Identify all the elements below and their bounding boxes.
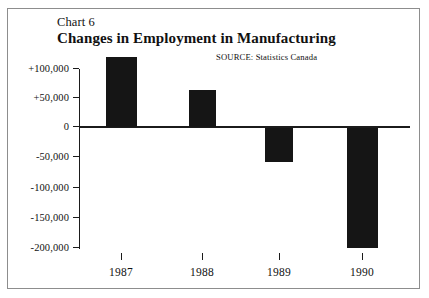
y-axis-tick-label: -50,000	[3, 151, 69, 162]
y-axis-tick-label: 0	[3, 121, 69, 132]
y-axis-tick	[73, 217, 79, 218]
y-axis-tick	[73, 156, 79, 157]
bar-1989	[265, 128, 293, 162]
x-axis-label-1988: 1988	[172, 266, 232, 279]
x-axis-label-1989: 1989	[249, 266, 309, 279]
bar-1987	[106, 57, 137, 127]
y-axis-tick-label: +100,000	[3, 63, 69, 74]
x-axis-label-1987: 1987	[91, 266, 151, 279]
y-axis-tick	[73, 68, 79, 69]
x-axis-label-1990: 1990	[332, 266, 392, 279]
chart-figure: Chart 6 Changes in Employment in Manufac…	[0, 0, 429, 298]
x-axis-tick	[202, 253, 203, 260]
plot-area: +100,000+50,0000-50,000-100,000-150,000-…	[0, 0, 429, 298]
y-axis-tick	[73, 247, 79, 248]
y-axis-tick-label: -150,000	[3, 212, 69, 223]
bar-1988	[189, 90, 216, 127]
y-axis-tick-label-text: -200,000	[3, 242, 69, 253]
y-axis-tick-label-text: -100,000	[3, 182, 69, 193]
y-axis-tick-label-text: -50,000	[3, 151, 69, 162]
x-axis-tick	[362, 253, 363, 260]
y-axis-tick-label: -100,000	[3, 182, 69, 193]
y-axis-tick-label-text: -150,000	[3, 212, 69, 223]
y-axis-tick-label-text: 0	[3, 121, 69, 132]
y-axis-tick-label: +50,000	[3, 92, 69, 103]
y-axis-tick-label: -200,000	[3, 242, 69, 253]
bar-1990	[347, 128, 378, 248]
x-axis-tick	[121, 253, 122, 260]
y-axis-tick	[73, 97, 79, 98]
x-axis-tick	[279, 253, 280, 260]
y-axis-tick-label-text: +50,000	[3, 92, 69, 103]
y-axis-line	[79, 69, 80, 249]
y-axis-tick	[73, 126, 79, 127]
y-axis-tick	[73, 187, 79, 188]
y-axis-tick-label-text: +100,000	[3, 63, 69, 74]
